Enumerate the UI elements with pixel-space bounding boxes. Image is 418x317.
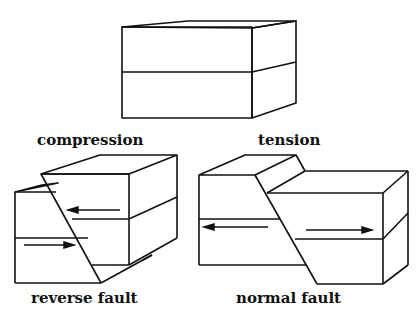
arrow-left-icon — [204, 224, 268, 230]
undeformed-block — [122, 21, 296, 118]
reverse-fault-block — [15, 155, 177, 283]
label-compression: compression — [37, 131, 143, 149]
normal-fault-block — [199, 155, 408, 284]
arrow-left-icon — [68, 207, 120, 213]
label-tension: tension — [258, 131, 320, 149]
fault-diagram — [0, 0, 418, 317]
arrow-right-icon — [24, 242, 74, 248]
label-normal-fault: normal fault — [236, 289, 341, 307]
label-reverse-fault: reverse fault — [31, 289, 138, 307]
arrow-right-icon — [306, 227, 372, 233]
